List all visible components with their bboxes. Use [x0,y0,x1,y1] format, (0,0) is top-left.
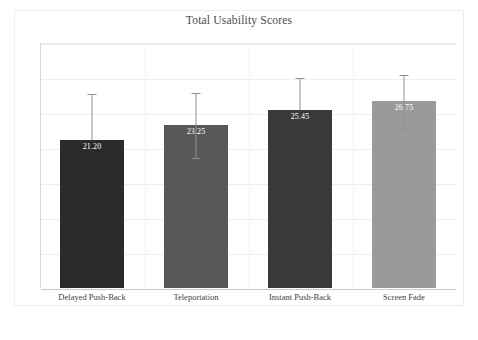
x-axis-category-label: Teleportation [144,292,248,302]
error-bar-cap-lower [400,129,409,130]
error-bar-cap-upper [192,93,201,94]
chart-container: Total Usability Scores 21.2023.2525.4526… [0,0,478,340]
error-bar-cap-lower [192,158,201,159]
x-axis-labels: Delayed Push-BackTeleportationInstant Pu… [40,292,456,310]
bar-slot: 26.75 [352,43,456,288]
x-axis-category-label: Screen Fade [352,292,456,302]
x-axis-category-label: Instant Push-Back [248,292,352,302]
bar-value-label: 25.45 [268,112,332,121]
bar-slot: 25.45 [248,43,352,288]
x-axis-category-label: Delayed Push-Back [40,292,144,302]
bar-slot: 23.25 [144,43,248,288]
bar-delayed-push-back[interactable]: 21.20 [60,140,124,288]
chart-title: Total Usability Scores [0,14,478,26]
error-bar-cap-upper [296,78,305,79]
error-bar [196,93,197,158]
error-bar [300,78,301,110]
error-bar-cap-upper [88,94,97,95]
bars-layer: 21.2023.2525.4526.75 [40,43,456,288]
error-bar-cap-upper [400,75,409,76]
error-bar [404,75,405,130]
bar-slot: 21.20 [40,43,144,288]
bar-value-label: 21.20 [60,142,124,151]
bar-instant-push-back[interactable]: 25.45 [268,110,332,288]
gridline-0 [41,289,456,290]
error-bar [92,94,93,140]
